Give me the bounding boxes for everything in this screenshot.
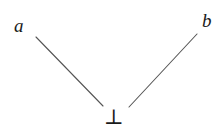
edge-bottom-to-a (36, 37, 103, 106)
node-label-a: a (14, 16, 24, 35)
edge-bottom-to-b (129, 34, 197, 107)
node-label-bottom: ⊥ (104, 107, 124, 128)
node-label-b: b (202, 11, 212, 30)
hasse-diagram-figure: a b ⊥ (0, 0, 224, 140)
